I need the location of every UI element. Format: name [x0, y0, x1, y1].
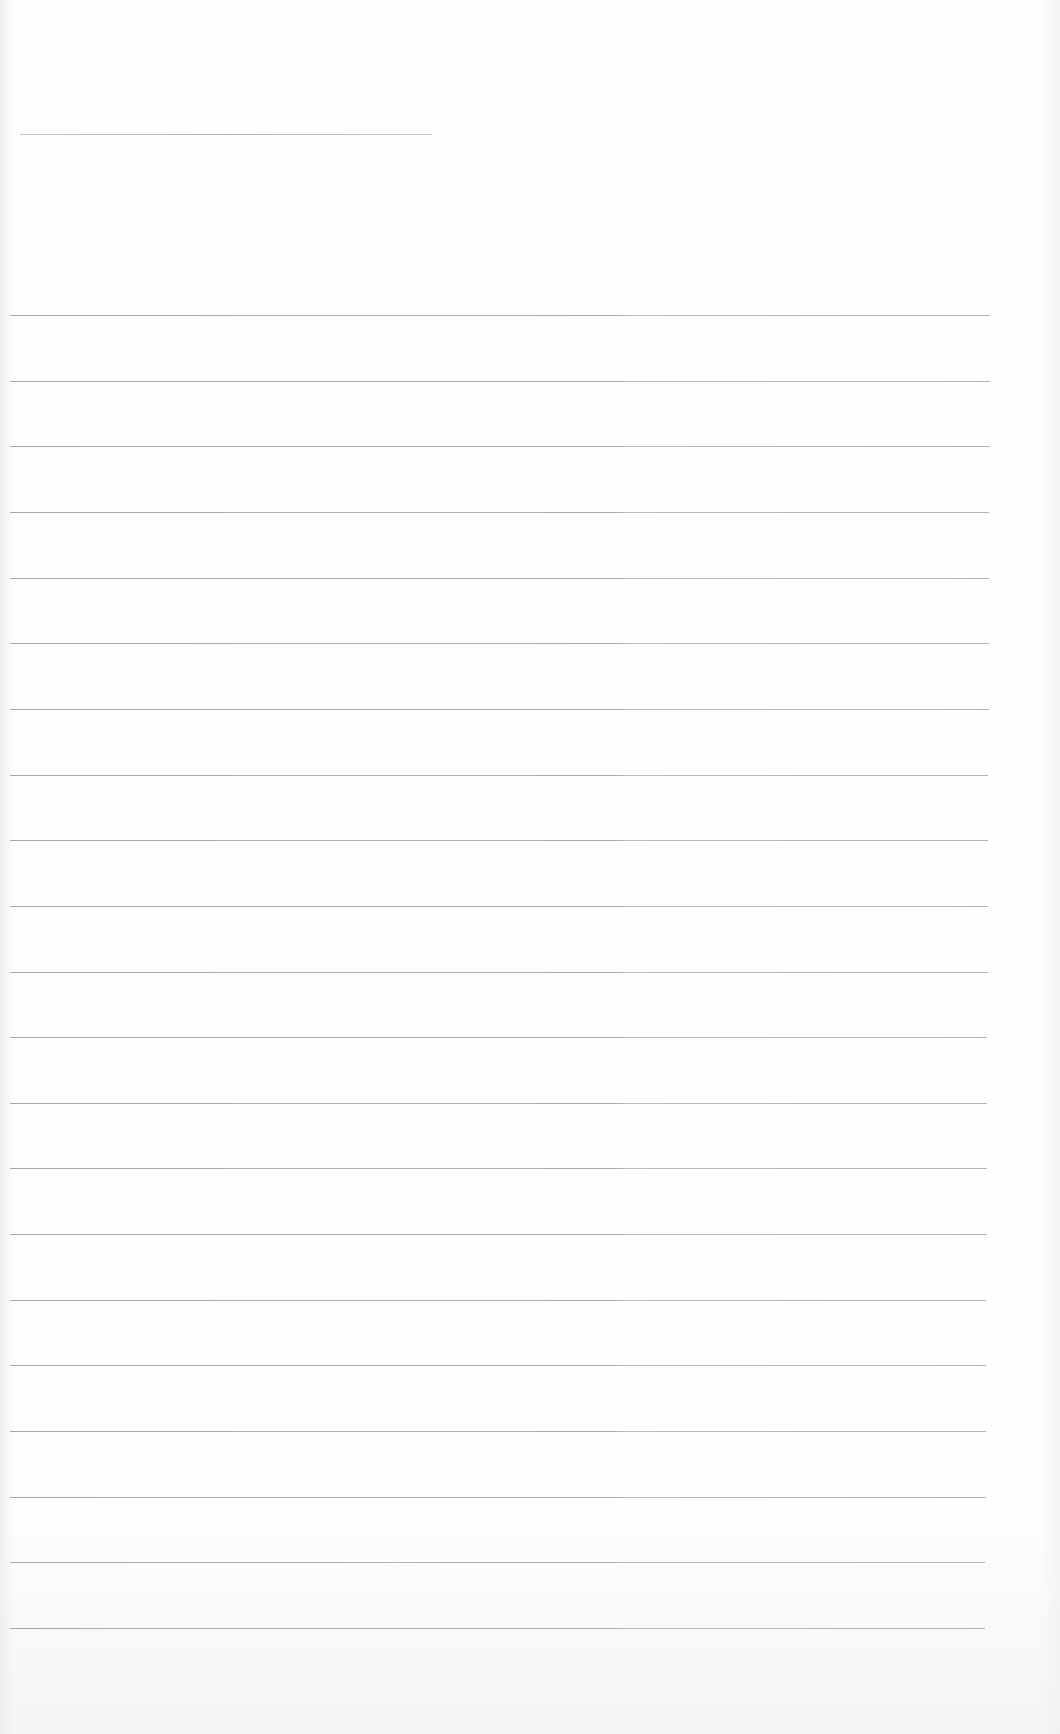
- ruled-line: [10, 840, 988, 841]
- ruled-line: [10, 315, 990, 316]
- ruled-line: [10, 1497, 986, 1498]
- ruled-line: [10, 906, 988, 907]
- ruled-line: [10, 972, 988, 973]
- ruled-line: [10, 709, 989, 710]
- ruled-line: [10, 446, 990, 447]
- ruled-line: [10, 1431, 986, 1432]
- ruled-line: [10, 1234, 987, 1235]
- ruled-line: [10, 1037, 987, 1038]
- ruled-lines-container: [0, 0, 1060, 1734]
- ruled-line: [10, 1300, 986, 1301]
- ruled-paper-page: [0, 0, 1060, 1734]
- ruled-line: [10, 775, 988, 776]
- ruled-line: [10, 1562, 985, 1563]
- ruled-line: [10, 512, 989, 513]
- ruled-line: [10, 578, 989, 579]
- ruled-line: [10, 1365, 986, 1366]
- ruled-line: [10, 1103, 987, 1104]
- ruled-line: [10, 1628, 985, 1629]
- ruled-line: [10, 381, 990, 382]
- ruled-line: [10, 643, 989, 644]
- ruled-line: [10, 1168, 987, 1169]
